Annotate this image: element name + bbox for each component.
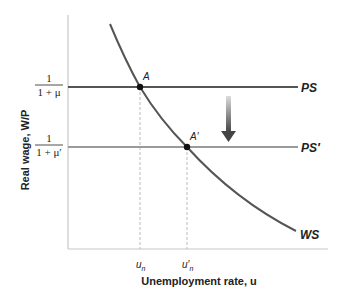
point-a-prime [184, 144, 190, 150]
x-axis-title: Unemployment rate, u [141, 275, 257, 287]
frac-den-ps: 1 + μ [37, 86, 60, 98]
point-a-prime-label: A′ [189, 131, 200, 142]
ps-prime-label: PS′ [301, 141, 321, 155]
tick-un-prime: u′n [182, 259, 193, 272]
shift-arrow-shaft [226, 96, 231, 132]
ws-curve [110, 24, 296, 231]
frac-num-ps-prime: 1 [46, 132, 52, 144]
shift-arrow-head [221, 131, 236, 142]
tick-un: un [136, 259, 146, 272]
chart: A A′ PS PS′ WS 1 1 + μ 1 1 + μ′ un u′n U… [0, 0, 341, 297]
frac-den-ps-prime: 1 + μ′ [36, 146, 62, 158]
point-a [137, 84, 143, 90]
frac-num-ps: 1 [46, 72, 52, 84]
point-a-label: A [142, 71, 150, 82]
ws-label: WS [300, 228, 319, 242]
ps-label: PS [301, 81, 317, 95]
y-axis-title: Real wage, W/P [19, 110, 31, 191]
